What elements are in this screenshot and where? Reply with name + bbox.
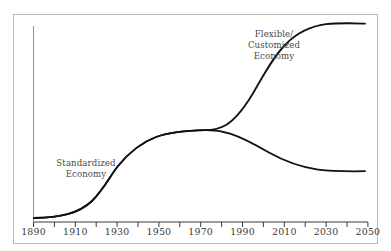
annotation-flexible-line2: Customized (238, 40, 310, 51)
x-tick-label-1990: 1990 (230, 226, 255, 237)
annotation-flexible-line1: Flexible/ (238, 29, 310, 40)
annotation-flexible-line3: Economy (238, 51, 310, 62)
x-tick-label-1930: 1930 (105, 226, 130, 237)
x-tick-label-1950: 1950 (147, 226, 172, 237)
x-tick-label-1890: 1890 (21, 226, 46, 237)
annotation-standardized-line2: Economy (46, 169, 126, 180)
x-tick-label-2030: 2030 (314, 226, 339, 237)
figure-canvas: Standardized Economy Flexible/ Customize… (0, 0, 391, 251)
x-tick-label-2010: 2010 (272, 226, 297, 237)
chart-plot-area (0, 0, 391, 251)
annotation-flexible-economy: Flexible/ Customized Economy (238, 29, 310, 63)
curve-flexible-customized-economy (34, 23, 365, 218)
x-tick-label-2050: 2050 (356, 226, 381, 237)
annotation-standardized-line1: Standardized (46, 158, 126, 169)
x-tick-label-1910: 1910 (63, 226, 88, 237)
x-tick-label-1970: 1970 (188, 226, 213, 237)
x-axis-tick-labels: 1890 1910 1930 1950 1970 1990 2010 2030 … (0, 226, 391, 242)
annotation-standardized-economy: Standardized Economy (46, 158, 126, 180)
